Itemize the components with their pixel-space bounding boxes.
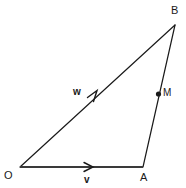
point-label-M: M (163, 88, 171, 98)
geometry-figure: O A B v w M (0, 0, 186, 188)
vector-label-w: w (73, 87, 81, 97)
vertex-label-O: O (4, 170, 13, 181)
point-M-dot (156, 91, 161, 96)
edge-OB (20, 25, 175, 167)
vector-w-arrowhead (88, 91, 98, 102)
triangle-diagram-canvas (0, 0, 186, 188)
vertex-label-B: B (171, 5, 178, 16)
vertex-label-A: A (140, 172, 147, 183)
vector-label-v: v (84, 175, 90, 185)
